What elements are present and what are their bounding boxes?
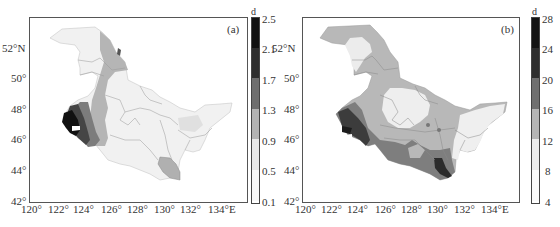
colorbar-unit: d [532, 6, 537, 17]
lat-label: 44° [284, 165, 299, 176]
colorbar-label: 16 [542, 105, 553, 116]
lat-label: 46° [284, 134, 299, 145]
colorbar-label: 0.1 [262, 197, 276, 208]
lon-label: 134°E [481, 204, 509, 215]
colorbar-label: 12 [542, 136, 553, 147]
lon-label: 126° [375, 204, 396, 215]
lat-label: 48° [284, 104, 299, 115]
lat-label: 50° [11, 73, 26, 84]
panel-b: (b) 52°N 50° 48° 46° 44° 42° 120° 122° 1… [280, 0, 560, 227]
colorbar-label: 28 [542, 14, 553, 25]
lon-label: 132° [454, 204, 475, 215]
colorbar-label: 2.5 [262, 14, 276, 25]
lon-label: 128° [127, 204, 148, 215]
colorbar-label: 24 [542, 44, 553, 55]
colorbar-label: 1.3 [262, 105, 276, 116]
colorbar-label: 0.5 [262, 166, 276, 177]
lon-label: 134°E [208, 204, 236, 215]
lon-label: 122° [321, 204, 342, 215]
lat-label: 46° [11, 134, 26, 145]
colorbar-a [251, 17, 260, 204]
panel-label: (b) [501, 24, 514, 35]
panel-label: (a) [227, 24, 239, 35]
colorbar-label: 4 [545, 197, 551, 208]
colorbar-label: 0.9 [262, 136, 276, 147]
lon-label: 130° [154, 204, 175, 215]
lat-label: 50° [284, 73, 299, 84]
lon-label: 132° [180, 204, 201, 215]
lon-label: 124° [347, 204, 368, 215]
map-b [280, 0, 560, 227]
panel-a: (a) 52°N 50° 48° 46° 44° 42° 120° 122° 1… [0, 0, 280, 227]
colorbar-b [531, 17, 540, 204]
region-outline-a [50, 27, 232, 180]
lat-label: 52°N [2, 43, 25, 54]
colorbar-label: 20 [542, 75, 553, 86]
lon-label: 120° [295, 204, 316, 215]
lat-label: 44° [11, 165, 26, 176]
lat-label: 52°N [272, 43, 295, 54]
lon-label: 126° [101, 204, 122, 215]
lon-label: 122° [48, 204, 69, 215]
lon-label: 124° [73, 204, 94, 215]
lon-label: 130° [427, 204, 448, 215]
lon-label: 120° [21, 204, 42, 215]
colorbar-unit: d [251, 6, 256, 17]
colorbar-label: 8 [545, 166, 551, 177]
lat-label: 48° [11, 104, 26, 115]
lon-label: 128° [401, 204, 422, 215]
colorbar-label: 1.7 [262, 75, 276, 86]
